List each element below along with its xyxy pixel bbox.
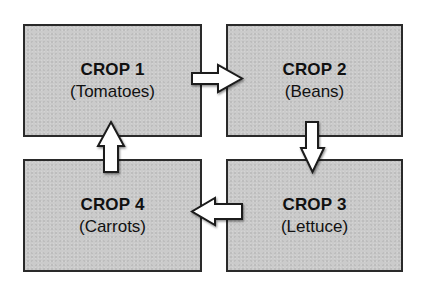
crop-1-box: CROP 1 (Tomatoes) <box>23 24 202 137</box>
crop-4-title: CROP 4 <box>80 194 144 216</box>
crop-4-subtitle: (Carrots) <box>79 216 146 238</box>
crop-3-box: CROP 3 (Lettuce) <box>226 159 403 272</box>
crop-2-title: CROP 2 <box>282 59 346 81</box>
crop-1-subtitle: (Tomatoes) <box>70 81 155 103</box>
crop-2-box: CROP 2 (Beans) <box>226 24 403 137</box>
crop-3-subtitle: (Lettuce) <box>281 216 348 238</box>
crop-1-title: CROP 1 <box>80 59 144 81</box>
crop-4-box: CROP 4 (Carrots) <box>23 159 202 272</box>
crop-2-subtitle: (Beans) <box>285 81 345 103</box>
crop-3-title: CROP 3 <box>282 194 346 216</box>
